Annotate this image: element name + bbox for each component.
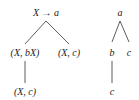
- right-edge-root-right: [120, 21, 129, 42]
- right-child-right-label: c: [127, 47, 132, 58]
- right-root-label: a: [118, 7, 123, 18]
- left-child-right-label: (X, c): [58, 47, 81, 59]
- left-tree: X → a (X, bX) (X, c) (X, c): [11, 7, 81, 98]
- right-edge-root-left: [112, 21, 120, 42]
- right-grandchild-label: c: [110, 86, 115, 97]
- left-child-left-label: (X, bX): [11, 47, 41, 59]
- left-grandchild-label: (X, c): [14, 86, 37, 98]
- tree-diagrams: X → a (X, bX) (X, c) (X, c) a b c c: [0, 0, 139, 100]
- left-edge-root-left: [25, 21, 46, 44]
- left-edge-root-right: [46, 21, 69, 44]
- right-child-left-label: b: [110, 47, 115, 58]
- left-root-label: X → a: [32, 7, 59, 18]
- right-tree: a b c c: [110, 7, 132, 97]
